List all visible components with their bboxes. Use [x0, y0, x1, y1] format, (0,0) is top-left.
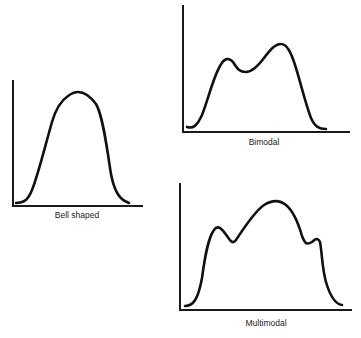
bell-curve — [16, 92, 129, 203]
bell-chart — [13, 80, 143, 206]
multimodal-axes — [180, 183, 352, 310]
bimodal-axes — [183, 5, 350, 132]
multimodal-chart — [180, 183, 352, 310]
distribution-diagrams — [0, 0, 361, 338]
bimodal-curve — [187, 44, 326, 129]
multimodal-label: Multimodal — [245, 318, 286, 328]
bimodal-label: Bimodal — [249, 137, 280, 147]
multimodal-curve — [185, 201, 342, 306]
bell-label: Bell shaped — [55, 210, 99, 220]
bimodal-chart — [183, 5, 350, 132]
